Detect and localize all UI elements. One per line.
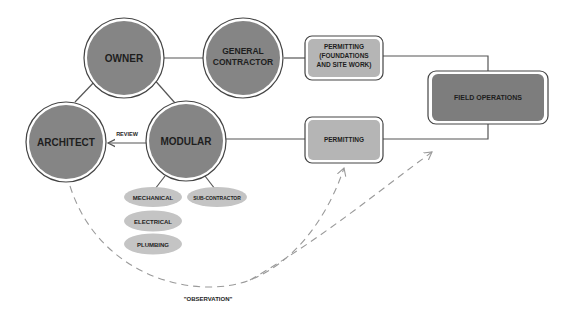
observation-curve-to-field-ops	[250, 152, 432, 280]
field-operations-node[interactable]: FIELD OPERATIONS	[428, 71, 548, 124]
architect-label: ARCHITECT	[37, 137, 95, 148]
permitting-foundations-line3: AND SITE WORK)	[317, 61, 372, 69]
permitting-foundations-node[interactable]: PERMITTING (FOUNDATIONS AND SITE WORK)	[305, 36, 383, 80]
gc-label-line1: GENERAL	[222, 46, 264, 56]
modular-label: MODULAR	[160, 136, 212, 147]
modular-subcontractor-line	[205, 176, 215, 189]
observation-label: "OBSERVATION"	[184, 296, 233, 302]
architect-node[interactable]: ARCHITECT	[26, 102, 106, 182]
permitting-label: PERMITTING	[324, 136, 364, 143]
modular-node[interactable]: MODULAR	[146, 101, 226, 181]
owner-node[interactable]: OWNER	[84, 18, 164, 98]
permitting-foundations-field-ops-line	[383, 56, 488, 72]
observation-curve-to-permitting	[70, 168, 344, 287]
electrical-label: ELECTRICAL	[134, 219, 172, 225]
mechanical-label: MECHANICAL	[133, 195, 174, 201]
electrical-node[interactable]: ELECTRICAL	[124, 211, 182, 232]
general-contractor-node[interactable]: GENERAL CONTRACTOR	[203, 18, 283, 98]
review-label: REVIEW	[116, 131, 139, 137]
permitting-foundations-line1: PERMITTING	[324, 43, 364, 50]
sub-contractor-label: SUB-CONTRACTOR	[193, 195, 241, 201]
field-operations-label: FIELD OPERATIONS	[454, 94, 522, 101]
modular-mechanical-line	[155, 176, 165, 189]
mechanical-node[interactable]: MECHANICAL	[124, 187, 182, 207]
permitting-node[interactable]: PERMITTING	[305, 117, 383, 163]
diagram-canvas: OWNER GENERAL CONTRACTOR ARCHITECT MODUL…	[0, 0, 575, 314]
sub-contractor-node[interactable]: SUB-CONTRACTOR	[187, 187, 247, 207]
permitting-foundations-line2: (FOUNDATIONS	[319, 52, 369, 60]
gc-label-line2: CONTRACTOR	[213, 57, 273, 67]
owner-label: OWNER	[105, 53, 144, 64]
plumbing-node[interactable]: PLUMBING	[124, 234, 182, 255]
plumbing-label: PLUMBING	[137, 242, 169, 248]
